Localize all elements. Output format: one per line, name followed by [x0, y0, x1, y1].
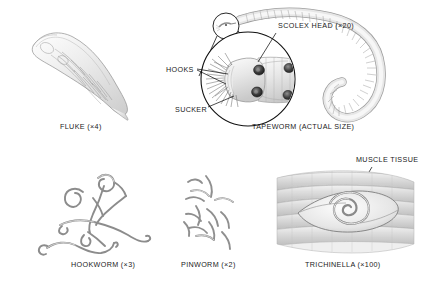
- hookworm-figure: [39, 175, 150, 255]
- illustration-canvas: [0, 0, 424, 281]
- callout-label-scolex-head: SCOLEX HEAD (×20): [278, 21, 354, 30]
- parasite-anatomy-plate: SCOLEX HEAD (×20) HOOKS SUCKER MUSCLE TI…: [0, 0, 424, 281]
- callout-label-sucker: SUCKER: [175, 105, 207, 114]
- caption-tapeworm: TAPEWORM (ACTUAL SIZE): [252, 122, 354, 131]
- caption-trichinella: TRICHINELLA (×100): [305, 260, 381, 269]
- caption-hookworm: HOOKWORM (×3): [71, 260, 135, 269]
- fluke-figure: [32, 33, 128, 120]
- pinworm-figure: [184, 176, 233, 249]
- callout-label-muscle-tissue: MUSCLE TISSUE: [356, 155, 418, 164]
- callout-label-hooks: HOOKS: [166, 65, 194, 74]
- caption-fluke: FLUKE (×4): [60, 122, 102, 131]
- trichinella-figure: [272, 168, 418, 258]
- muscle-fiber-bands: [272, 168, 418, 258]
- caption-pinworm: PINWORM (×2): [181, 260, 236, 269]
- scolex-magnified-circle: [201, 32, 308, 126]
